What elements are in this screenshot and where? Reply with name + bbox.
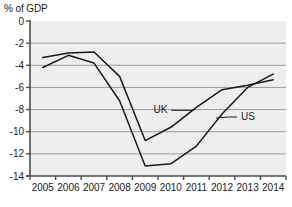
x-tick-label: 2005 <box>32 182 55 193</box>
x-tick-label: 2012 <box>211 182 234 193</box>
x-tick-label: 2007 <box>83 182 106 193</box>
annotation-label-us: US <box>241 111 255 122</box>
x-tick-label: 2013 <box>236 182 259 193</box>
x-tick-label: 2010 <box>160 182 183 193</box>
y-tick-label: -10 <box>10 126 25 137</box>
y-tick-label: 0 <box>18 16 24 27</box>
annotation-label-uk: UK <box>153 104 167 115</box>
y-tick-label: -14 <box>10 171 25 182</box>
y-axis-tick-labels: 0-2-4-6-8-10-12-14 <box>10 16 25 182</box>
x-tick-label: 2011 <box>186 182 208 193</box>
x-tick-label: 2008 <box>108 182 131 193</box>
y-tick-label: -12 <box>10 148 25 159</box>
deficit-line-chart: % of GDP 0-2-4-6-8-10-12-14 200520062007… <box>0 0 292 207</box>
y-tick-label: -8 <box>15 104 24 115</box>
chart-canvas: 0-2-4-6-8-10-12-14 200520062007200820092… <box>0 0 292 207</box>
x-tick-label: 2009 <box>134 182 157 193</box>
x-axis-tick-labels: 2005200620072008200920102011201220132014 <box>32 182 285 193</box>
y-tick-label: -6 <box>15 82 24 93</box>
x-tick-label: 2006 <box>57 182 80 193</box>
y-tick-label: -4 <box>15 60 24 71</box>
x-tick-label: 2014 <box>262 182 285 193</box>
plot-background <box>30 21 286 176</box>
y-tick-label: -2 <box>15 38 24 49</box>
